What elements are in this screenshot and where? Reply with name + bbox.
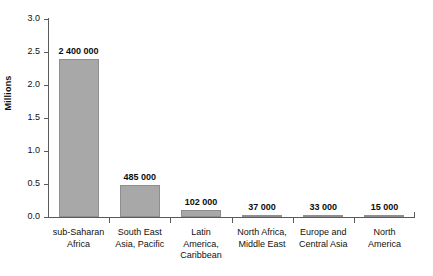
category-label-line: America, <box>170 239 231 251</box>
y-axis-tick-label: 0.0 <box>0 211 40 221</box>
bar-value-label: 2 400 000 <box>34 46 124 56</box>
bar <box>364 215 404 217</box>
y-axis-tick-label: 3.0 <box>0 13 40 23</box>
y-axis-tick <box>44 118 49 119</box>
category-label-line: Caribbean <box>170 250 231 262</box>
category-label-line: South East <box>109 227 170 239</box>
y-axis-tick <box>44 184 49 185</box>
x-axis-tick <box>109 218 110 223</box>
x-axis-tick <box>354 218 355 223</box>
category-label-line: North <box>354 227 415 239</box>
category-label-line: Europe and <box>293 227 354 239</box>
category-label-line: Middle East <box>232 239 293 251</box>
bar <box>120 185 160 217</box>
bar <box>242 215 282 217</box>
x-axis-tick <box>170 218 171 223</box>
category-label-line: Latin <box>170 227 231 239</box>
x-axis-category-label: North Africa,Middle East <box>232 227 293 250</box>
x-axis-tick <box>293 218 294 223</box>
category-label-line: Central Asia <box>293 239 354 251</box>
x-axis-category-label: Europe andCentral Asia <box>293 227 354 250</box>
y-axis-tick-label: 0.5 <box>0 178 40 188</box>
x-axis-category-label: LatinAmerica,Caribbean <box>170 227 231 262</box>
category-label-line: America <box>354 239 415 251</box>
y-axis-tick <box>44 217 49 218</box>
bar-chart: Millions 0.00.51.01.52.02.53.0 2 400 000… <box>0 0 433 276</box>
y-axis-tick-label: 2.0 <box>0 79 40 89</box>
bar <box>303 215 343 217</box>
x-axis-category-label: South EastAsia, Pacific <box>109 227 170 250</box>
x-axis-category-label: sub-SaharanAfrica <box>48 227 109 250</box>
bar-value-label: 485 000 <box>95 172 185 182</box>
category-label-line: Asia, Pacific <box>109 239 170 251</box>
x-axis-tick <box>232 218 233 223</box>
category-label-line: Africa <box>48 239 109 251</box>
y-axis-tick <box>44 85 49 86</box>
y-axis-tick-label: 1.5 <box>0 112 40 122</box>
category-label-line: North Africa, <box>232 227 293 239</box>
y-axis-tick-label: 1.0 <box>0 145 40 155</box>
bar <box>59 59 99 217</box>
y-axis-tick <box>44 19 49 20</box>
x-axis-end-tick <box>414 212 415 218</box>
bar <box>181 210 221 217</box>
category-label-line: sub-Saharan <box>48 227 109 239</box>
x-axis-category-label: NorthAmerica <box>354 227 415 250</box>
y-axis-tick <box>44 151 49 152</box>
bar-value-label: 15 000 <box>339 202 429 212</box>
